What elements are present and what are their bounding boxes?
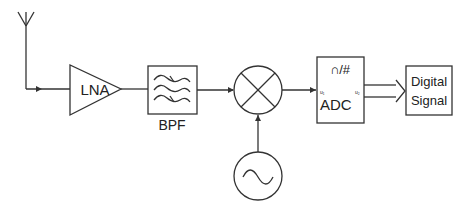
output-label-line1: Digital (411, 74, 447, 89)
antenna-icon (18, 12, 34, 89)
bpf-label: BPF (158, 117, 185, 133)
output-label-line2: Signal (411, 93, 447, 108)
adc-output-pin: u₂ (355, 89, 360, 95)
mixer-icon (234, 66, 282, 114)
double-arrow-icon (364, 80, 405, 102)
adc-symbol: ∩/# (330, 62, 351, 77)
adc-label: ADC (320, 96, 352, 113)
bpf-waves-icon (154, 75, 190, 102)
block-diagram: LNA BPF ∩/# u₁ u₂ ADC Digital Signal (0, 0, 468, 214)
adc-input-pin: u₁ (320, 89, 325, 95)
oscillator-icon (234, 152, 282, 200)
lna-label: LNA (80, 81, 109, 98)
bpf-box (148, 66, 197, 114)
